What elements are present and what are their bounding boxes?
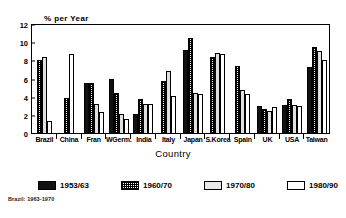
y-axis-title: % per Year	[44, 14, 89, 23]
bar	[272, 107, 277, 134]
x-axis-tick-label: Fran	[81, 136, 106, 148]
bar-group	[32, 25, 57, 134]
bar-groups	[32, 25, 329, 134]
x-axis-tick-label: India	[132, 136, 157, 148]
y-axis-tick-label: 4	[24, 93, 32, 102]
y-axis-tick-label: 8	[24, 57, 32, 66]
bar-group	[304, 25, 329, 134]
bar-group	[230, 25, 255, 134]
x-axis-tick-label: Brazil	[32, 136, 57, 148]
y-axis-tick-label: 2	[24, 111, 32, 120]
y-axis-tick-label: 6	[24, 75, 32, 84]
legend-swatch	[121, 181, 139, 190]
legend-label: 1960/70	[143, 181, 172, 190]
legend-label: 1970/80	[226, 181, 255, 190]
bar-group	[205, 25, 230, 134]
growth-rate-bar-chart: % per Year 024681012 BrazilChinaFranWGer…	[0, 0, 346, 218]
x-axis-tick-label: Japan	[181, 136, 206, 148]
x-axis-tick-label: WGerm.	[106, 136, 132, 148]
bar	[171, 96, 176, 134]
legend-item: 1970/80	[204, 181, 255, 190]
plot-area: 024681012	[32, 25, 329, 134]
bar-group	[82, 25, 107, 134]
legend-item: 1960/70	[121, 181, 172, 190]
bar	[124, 119, 129, 134]
x-axis-tick-label: Spain	[230, 136, 255, 148]
bar	[245, 94, 250, 134]
legend-item: 1953/63	[38, 181, 89, 190]
x-axis-tick-labels: BrazilChinaFranWGerm.IndiaItalyJapanS.Ko…	[32, 136, 329, 148]
x-axis-tick-label: USA	[280, 136, 305, 148]
bar-group	[57, 25, 82, 134]
y-axis-tick-label: 10	[20, 39, 32, 48]
chart-legend: 1953/631960/701970/801980/90	[38, 181, 338, 190]
x-axis-tick-label: China	[57, 136, 82, 148]
bar	[148, 104, 153, 134]
legend-item: 1980/90	[287, 181, 338, 190]
y-axis-tick-label: 0	[24, 130, 32, 139]
bar-group	[106, 25, 131, 134]
bar-group	[131, 25, 156, 134]
bar	[47, 121, 52, 134]
bar-group	[280, 25, 305, 134]
chart-footnote: Brazil: 1963-1970	[8, 196, 54, 202]
bar	[99, 112, 104, 134]
legend-swatch	[204, 181, 222, 190]
bar	[220, 54, 225, 134]
y-axis-tick-label: 12	[20, 21, 32, 30]
x-axis-tick-label: UK	[255, 136, 280, 148]
bar	[198, 94, 203, 134]
legend-label: 1953/63	[60, 181, 89, 190]
bar	[69, 54, 74, 134]
bar	[297, 106, 302, 134]
legend-swatch	[287, 181, 305, 190]
bar	[322, 60, 327, 134]
bar-group	[156, 25, 181, 134]
x-axis-tick-label: S.Korea	[205, 136, 230, 148]
x-axis-title: Country	[0, 148, 346, 159]
bar-group	[255, 25, 280, 134]
legend-swatch	[38, 181, 56, 190]
legend-label: 1980/90	[309, 181, 338, 190]
x-axis-tick-label: Italy	[156, 136, 181, 148]
bar-group	[181, 25, 206, 134]
x-axis-tick-label: Taiwan	[304, 136, 329, 148]
